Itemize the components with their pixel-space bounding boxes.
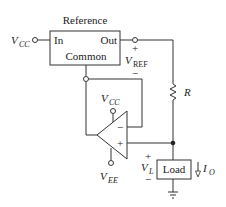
- svg-text:+: +: [132, 42, 138, 54]
- load: Load + V L − I O: [141, 150, 215, 198]
- resistor-icon: [170, 84, 176, 100]
- opamp-vee-terminal-icon: [109, 161, 114, 166]
- opamp-triangle-icon: [97, 111, 127, 159]
- svg-text:−: −: [145, 173, 151, 185]
- opamp-vcc-terminal-icon: [111, 109, 116, 114]
- pin-in-label: In: [54, 34, 64, 46]
- vcc-input-subscript: CC: [19, 40, 30, 49]
- vref-label: + V REF −: [125, 42, 148, 79]
- reference-block: Reference In Out Common: [50, 14, 120, 65]
- pin-out-label: Out: [101, 34, 118, 46]
- svg-text:V: V: [100, 170, 108, 182]
- svg-text:O: O: [209, 168, 215, 177]
- current-source-circuit: Reference In Out Common V CC R + V REF −…: [0, 0, 226, 207]
- vcc-terminal-icon: [33, 38, 38, 43]
- pin-common-label: Common: [66, 50, 107, 62]
- svg-text:V: V: [141, 161, 149, 173]
- resistor-label: R: [183, 86, 191, 98]
- opamp-noninverting-label: +: [117, 137, 123, 149]
- vcc-input-symbol: V: [11, 34, 19, 46]
- common-terminal-icon: [84, 77, 89, 82]
- svg-text:−: −: [132, 67, 138, 79]
- svg-text:I: I: [202, 162, 208, 174]
- vcc-input: V CC: [11, 34, 50, 49]
- svg-text:V: V: [125, 54, 133, 66]
- svg-text:EE: EE: [107, 176, 118, 185]
- junction-node-icon: [171, 141, 176, 146]
- opamp-inverting-label: −: [117, 121, 123, 133]
- current-arrow-icon: [196, 162, 201, 177]
- svg-text:CC: CC: [109, 98, 120, 107]
- load-label: Load: [163, 163, 186, 175]
- svg-text:V: V: [101, 92, 109, 104]
- ground-icon: [168, 192, 178, 198]
- reference-title: Reference: [63, 14, 108, 26]
